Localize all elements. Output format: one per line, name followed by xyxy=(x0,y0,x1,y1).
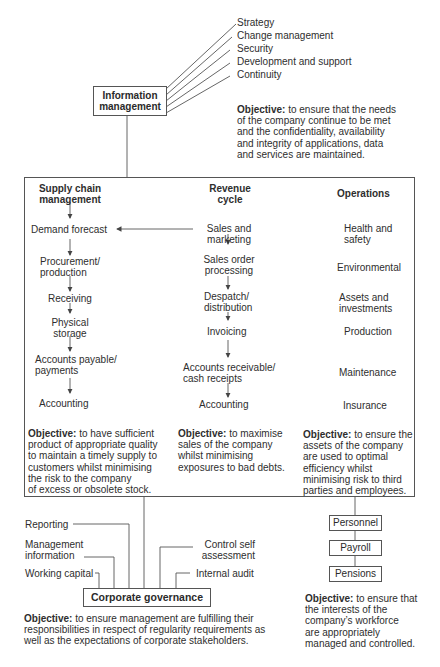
objective-text: efficiency whilst xyxy=(303,463,413,474)
step-line: Physical xyxy=(50,317,90,328)
objective-text: to ensure the xyxy=(351,429,412,440)
step-line: Sales order xyxy=(198,254,260,265)
revenue-step-sales-marketing: Sales and marketing xyxy=(198,223,260,245)
objective-text: to have sufficient xyxy=(76,428,154,439)
objective-text: and integrity of applications, data xyxy=(237,138,396,149)
revenue-step-sales-order: Sales order processing xyxy=(198,254,260,276)
objective-text: responsibilities in respect of regularit… xyxy=(24,624,265,635)
operations-title: Operations xyxy=(337,188,390,199)
objective-label: Objective: xyxy=(178,428,226,439)
supply-chain-title: Supply chain management xyxy=(30,183,110,205)
cg-area-management-information: Management information xyxy=(25,539,83,561)
objective-text: product of appropriate quality xyxy=(28,439,158,450)
step-line: distribution xyxy=(204,302,252,313)
area-line: Control self xyxy=(200,539,255,550)
objective-text: minimising risk to third xyxy=(303,474,413,485)
objective-text: to ensure management are fulfilling thei… xyxy=(72,613,253,624)
corporate-governance-objective: Objective: to ensure management are fulf… xyxy=(24,613,265,647)
objective-text: assets of the company xyxy=(303,440,413,451)
area-line: information xyxy=(25,550,83,561)
objective-text: are appropriately xyxy=(305,627,417,638)
operations-item-health-safety: Health and safety xyxy=(344,223,392,245)
objective-text: are used to optimal xyxy=(303,451,413,462)
objective-text: and the confidentiality, availability xyxy=(237,126,396,137)
supply-step-demand-forecast: Demand forecast xyxy=(31,224,107,235)
supply-step-procurement: Procurement/ production xyxy=(40,256,100,278)
revenue-title-1: Revenue xyxy=(205,183,255,194)
im-area-continuity: Continuity xyxy=(237,69,281,80)
im-area-development-support: Development and support xyxy=(237,56,352,67)
objective-text: parties and employees. xyxy=(303,485,413,496)
operations-item-environmental: Environmental xyxy=(337,262,401,273)
objective-text: managed and controlled. xyxy=(305,638,417,649)
operations-item-assets-investments: Assets and investments xyxy=(339,292,392,314)
operations-item-production: Production xyxy=(344,326,392,337)
supply-chain-title-1: Supply chain xyxy=(30,183,110,194)
supply-chain-objective: Objective: to have sufficient product of… xyxy=(28,428,158,495)
objective-text: to maintain a timely supply to xyxy=(28,450,158,461)
step-line: Accounts receivable/ xyxy=(183,362,275,373)
revenue-step-accounting: Accounting xyxy=(199,399,248,410)
operations-item-insurance: Insurance xyxy=(343,400,387,411)
operations-item-maintenance: Maintenance xyxy=(339,367,396,378)
item-line: safety xyxy=(344,234,392,245)
hr-pensions-box: Pensions xyxy=(329,566,382,582)
step-line: payments xyxy=(35,365,117,376)
information-management-title-1: Information xyxy=(94,90,166,101)
supply-step-accounting: Accounting xyxy=(39,398,88,409)
objective-label: Objective: xyxy=(24,613,72,624)
revenue-cycle-title: Revenue cycle xyxy=(205,183,255,205)
information-management-box: Information management xyxy=(93,86,167,116)
objective-label: Objective: xyxy=(305,593,353,604)
cg-area-working-capital: Working capital xyxy=(25,568,93,579)
objective-text: whilst minimising xyxy=(178,450,285,461)
step-line: production xyxy=(40,267,100,278)
item-line: Assets and xyxy=(339,292,392,303)
objective-text: customers whilst minimising xyxy=(28,462,158,473)
step-line: Procurement/ xyxy=(40,256,100,267)
item-line: investments xyxy=(339,303,392,314)
revenue-step-accounts-receivable: Accounts receivable/ cash receipts xyxy=(183,362,275,384)
objective-label: Objective: xyxy=(237,104,285,115)
im-area-strategy: Strategy xyxy=(237,17,274,28)
objective-text: sales of the company xyxy=(178,439,285,450)
revenue-step-invoicing: Invoicing xyxy=(207,326,246,337)
objective-text: the risk to the company xyxy=(28,473,158,484)
supply-step-physical-storage: Physical storage xyxy=(50,317,90,339)
objective-label: Objective: xyxy=(28,428,76,439)
step-line: cash receipts xyxy=(183,373,275,384)
revenue-step-despatch: Despatch/ distribution xyxy=(204,291,252,313)
objective-text: to ensure that xyxy=(353,593,417,604)
operations-objective: Objective: to ensure the assets of the c… xyxy=(303,429,413,496)
human-resources-objective: Objective: to ensure that the interests … xyxy=(305,593,417,649)
step-line: Despatch/ xyxy=(204,291,252,302)
objective-label: Objective: xyxy=(303,429,351,440)
revenue-title-2: cycle xyxy=(205,194,255,205)
supply-step-accounts-payable: Accounts payable/ payments xyxy=(35,354,117,376)
im-area-change-management: Change management xyxy=(237,30,333,41)
objective-text: exposures to bad debts. xyxy=(178,462,285,473)
item-line: Health and xyxy=(344,223,392,234)
cg-area-control-self-assessment: Control self assessment xyxy=(200,539,255,561)
objective-text: of excess or obsolete stock. xyxy=(28,484,158,495)
step-line: processing xyxy=(198,265,260,276)
information-management-title-2: management xyxy=(94,101,166,112)
objective-text: well as the expectations of corporate st… xyxy=(24,635,265,646)
objective-text: company’s workforce xyxy=(305,615,417,626)
information-management-objective: Objective: to ensure that the needs of t… xyxy=(237,104,396,160)
step-line: marketing xyxy=(198,234,260,245)
objective-text: to ensure that the needs xyxy=(285,104,396,115)
step-line: storage xyxy=(50,328,90,339)
area-line: Management xyxy=(25,539,83,550)
corporate-governance-box: Corporate governance xyxy=(83,588,211,607)
step-line: Accounts payable/ xyxy=(35,354,117,365)
objective-text: the interests of the xyxy=(305,604,417,615)
step-line: Sales and xyxy=(198,223,260,234)
supply-chain-title-2: management xyxy=(30,194,110,205)
im-area-security: Security xyxy=(237,43,273,54)
revenue-cycle-objective: Objective: to maximise sales of the comp… xyxy=(178,428,285,473)
area-line: assessment xyxy=(200,550,255,561)
objective-text: to maximise xyxy=(226,428,282,439)
cg-area-internal-audit: Internal audit xyxy=(196,568,254,579)
objective-text: and services are maintained. xyxy=(237,149,396,160)
